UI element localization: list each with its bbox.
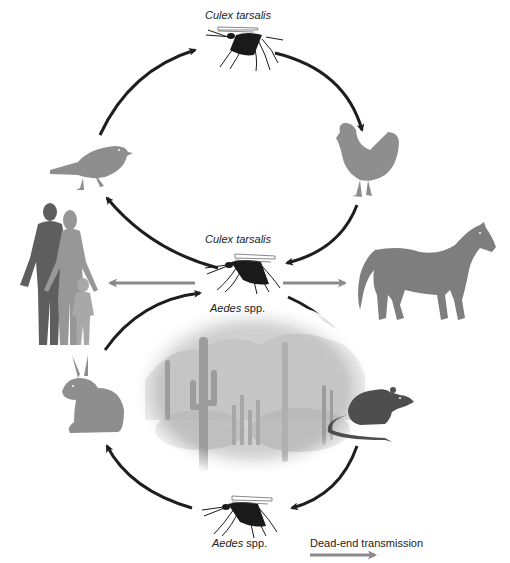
songbird-icon [50,146,133,190]
mosquito-culex-top-icon [206,27,283,71]
desert-landscape-image [128,300,378,480]
label-aedes-center: Aedes spp. [210,302,265,314]
rabbit-icon [62,355,124,433]
mosquito-center-icon [205,254,280,294]
diagram-artwork [0,0,510,563]
arrow-chicken-to-culex-center [287,205,357,263]
label-culex-tarsalis-center: Culex tarsalis [205,233,271,245]
legend: Dead-end transmission [310,537,423,549]
chicken-icon [336,123,399,197]
diagram-canvas: Culex tarsalis Culex tarsalis Aedes spp.… [0,0,510,563]
arrow-culex-center-to-bird [107,198,218,268]
legend-label: Dead-end transmission [310,537,423,549]
label-aedes-bottom: Aedes spp. [212,537,267,549]
arrow-bird-to-culex-top [100,50,195,135]
arrow-culex-top-to-chicken [275,53,362,130]
humans-icon [20,203,98,345]
horse-icon [358,222,496,320]
mosquito-aedes-bottom-icon [202,496,277,538]
label-culex-tarsalis-top: Culex tarsalis [205,9,271,21]
